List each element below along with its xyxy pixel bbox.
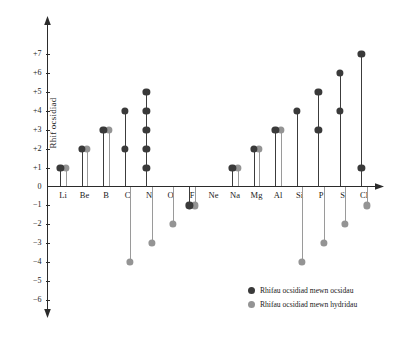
data-point-c-oxide-4 (121, 107, 128, 114)
stem-si-oxide (297, 111, 298, 187)
legend-item-hydrides: Rhifau ocsidiad mewn hydridau (248, 300, 357, 309)
stem-p-hydride (324, 187, 325, 244)
stem-b-hydride (109, 130, 110, 187)
y-tick-mark (46, 243, 50, 244)
y-tick-mark (46, 92, 50, 93)
data-point-si-oxide-4 (293, 107, 300, 114)
y-tick-mark (46, 130, 50, 131)
y-tick-label: −3 (18, 238, 42, 247)
y-tick-label: +3 (18, 125, 42, 134)
y-tick-label: −1 (18, 200, 42, 209)
y-tick-label: −5 (18, 276, 42, 285)
y-tick-mark (46, 168, 50, 169)
y-tick-mark (46, 262, 50, 263)
x-category-label-be: Be (80, 190, 89, 200)
data-point-n-oxide-5 (143, 88, 150, 95)
x-category-label-ne: Ne (209, 190, 219, 200)
y-tick-mark (46, 224, 50, 225)
stem-n-hydride (152, 187, 153, 244)
data-point-cl-hydride--1 (363, 202, 370, 209)
y-tick-label: +2 (18, 144, 42, 153)
stem-al-hydride (281, 130, 282, 187)
data-point-p-hydride--3 (320, 240, 327, 247)
y-tick-label: +7 (18, 49, 42, 58)
x-category-label-al: Al (274, 190, 283, 200)
legend-label-oxides: Rhifau ocsidiad mewn ocsidau (260, 286, 353, 295)
stem-c-hydride (130, 187, 131, 263)
y-tick-label: 0 (18, 182, 42, 191)
y-tick-mark (46, 205, 50, 206)
stem-mg-hydride (259, 149, 260, 187)
stem-p-oxide (318, 92, 319, 187)
legend-item-oxides: Rhifau ocsidiad mewn ocsidau (248, 286, 357, 295)
y-tick-mark (46, 111, 50, 112)
y-tick-mark (46, 300, 50, 301)
y-tick-mark (46, 73, 50, 74)
y-tick-label: −4 (18, 257, 42, 266)
y-tick-label: +1 (18, 163, 42, 172)
stem-mg-oxide (254, 149, 255, 187)
legend-label-hydrides: Rhifau ocsidiad mewn hydridau (260, 300, 357, 309)
oxidation-number-chart: Rhif ocsidiad +7+6+5+4+3+2+10−1−2−3−4−5−… (0, 0, 402, 338)
data-point-n-oxide-1 (143, 164, 150, 171)
stem-s-hydride (345, 187, 346, 225)
data-point-n-hydride--3 (148, 240, 155, 247)
chart-legend: Rhifau ocsidiad mewn ocsidau Rhifau ocsi… (248, 286, 357, 314)
y-tick-mark (46, 281, 50, 282)
stem-be-oxide (82, 149, 83, 187)
stem-b-oxide (103, 130, 104, 187)
data-point-cl-oxide-7 (358, 51, 365, 58)
y-tick-label: −6 (18, 295, 42, 304)
x-category-label-b: B (103, 190, 109, 200)
data-point-s-oxide-4 (336, 107, 343, 114)
stem-al-oxide (275, 130, 276, 187)
data-point-cl-oxide-1 (358, 164, 365, 171)
data-point-n-oxide-4 (143, 107, 150, 114)
stem-si-hydride (302, 187, 303, 263)
data-point-s-hydride--2 (342, 221, 349, 228)
x-category-label-mg: Mg (251, 190, 263, 200)
x-category-label-li: Li (59, 190, 67, 200)
dark-dot-icon (248, 287, 255, 294)
y-tick-mark (46, 54, 50, 55)
data-point-c-oxide-2 (121, 145, 128, 152)
data-point-si-hydride--4 (299, 259, 306, 266)
stem-s-oxide (340, 73, 341, 186)
data-point-o-hydride--2 (170, 221, 177, 228)
light-dot-icon (248, 301, 255, 308)
y-tick-mark (46, 149, 50, 150)
y-tick-label: +4 (18, 106, 42, 115)
y-tick-label: +6 (18, 68, 42, 77)
stem-o-hydride (173, 187, 174, 225)
data-point-p-oxide-5 (315, 88, 322, 95)
stem-n-oxide (146, 92, 147, 187)
data-point-s-oxide-6 (336, 70, 343, 77)
y-tick-label: −2 (18, 219, 42, 228)
data-point-n-oxide-2 (143, 145, 150, 152)
x-category-label-na: Na (230, 190, 240, 200)
data-point-n-oxide-3 (143, 126, 150, 133)
y-tick-label: +5 (18, 87, 42, 96)
data-point-p-oxide-3 (315, 126, 322, 133)
stem-be-hydride (87, 149, 88, 187)
data-point-c-hydride--4 (127, 259, 134, 266)
